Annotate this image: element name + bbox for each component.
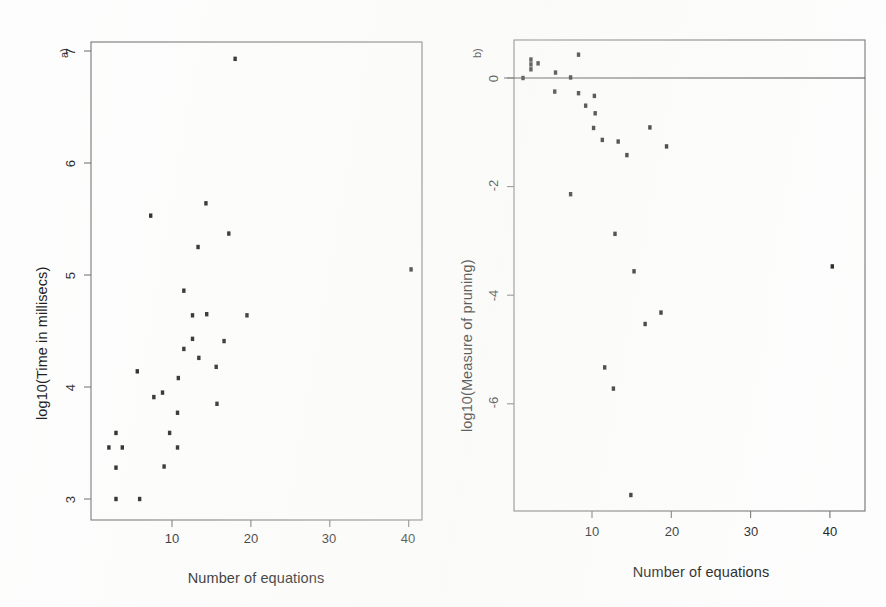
data-point: [114, 431, 117, 435]
data-point: [553, 89, 556, 93]
panel-b-xlabel: Number of equations: [601, 564, 801, 580]
data-point: [121, 445, 124, 449]
data-point: [162, 464, 165, 468]
panel-b-ytick-neg4: -4: [486, 284, 501, 308]
panel-a-ytick-7: 7: [63, 42, 78, 62]
data-point: [114, 497, 117, 501]
figure-canvas: a) log10(Time in millisecs) Number of eq…: [0, 0, 886, 607]
data-point: [629, 493, 632, 497]
panel-b-xtick-10: 10: [577, 524, 607, 539]
panel-b-xtick-30: 30: [736, 524, 766, 539]
plot-frame: [91, 42, 422, 520]
panel-a-xlabel: Number of equations: [156, 570, 356, 586]
data-point: [529, 57, 532, 61]
data-point: [625, 153, 628, 157]
data-point: [659, 310, 662, 314]
data-point: [196, 245, 199, 249]
data-point: [577, 91, 580, 95]
plot-frame: [514, 40, 865, 511]
data-point: [584, 103, 587, 107]
data-point: [138, 497, 141, 501]
data-point: [136, 369, 139, 373]
panel-a-xtick-10: 10: [157, 531, 187, 546]
data-point: [521, 76, 524, 80]
data-point: [233, 57, 236, 61]
data-point: [214, 365, 217, 369]
panel-a-plot-area: [0, 0, 443, 607]
data-point: [245, 313, 248, 317]
data-point: [603, 365, 606, 369]
data-point: [592, 126, 595, 130]
data-point: [191, 337, 194, 341]
data-point: [554, 70, 557, 74]
data-point: [182, 347, 185, 351]
panel-a-xtick-30: 30: [314, 531, 344, 546]
data-point: [643, 322, 646, 326]
panel-a-ytick-5: 5: [63, 266, 78, 286]
data-point: [114, 465, 117, 469]
data-point: [177, 376, 180, 380]
data-point: [577, 52, 580, 56]
panel-b: b) log10(Measure of pruning) Number of e…: [443, 0, 886, 607]
panel-a: a) log10(Time in millisecs) Number of eq…: [0, 0, 443, 607]
panel-b-ytick-neg6: -6: [486, 391, 501, 415]
data-point: [569, 192, 572, 196]
data-point: [569, 75, 572, 79]
data-point: [536, 61, 539, 65]
data-point: [176, 411, 179, 415]
data-point: [613, 232, 616, 236]
data-point: [612, 386, 615, 390]
panel-a-ytick-4: 4: [63, 378, 78, 398]
data-point: [222, 339, 225, 343]
panel-a-ytick-6: 6: [63, 154, 78, 174]
data-point: [215, 402, 218, 406]
data-point: [616, 139, 619, 143]
data-point: [168, 431, 171, 435]
panel-b-ylabel: log10(Measure of pruning): [459, 259, 475, 432]
data-point: [176, 445, 179, 449]
data-point: [648, 125, 651, 129]
data-point: [107, 445, 110, 449]
data-point: [601, 138, 604, 142]
data-point: [227, 231, 230, 235]
data-point: [191, 313, 194, 317]
panel-b-plot-area: [443, 0, 886, 607]
data-point: [593, 94, 596, 98]
panel-a-ylabel: log10(Time in millisecs): [34, 267, 50, 420]
panel-a-xtick-40: 40: [393, 531, 423, 546]
data-point: [409, 267, 412, 271]
panel-b-ytick-neg2: -2: [486, 174, 501, 198]
data-point: [529, 62, 532, 66]
data-point: [197, 356, 200, 360]
data-point: [204, 201, 207, 205]
data-point: [632, 269, 635, 273]
data-point: [152, 395, 155, 399]
panel-a-xtick-20: 20: [236, 531, 266, 546]
panel-b-tag: b): [471, 48, 483, 58]
data-point: [149, 213, 152, 217]
data-point: [161, 390, 164, 394]
panel-b-ytick-0: 0: [486, 69, 501, 89]
data-point: [831, 264, 834, 268]
data-point: [665, 144, 668, 148]
panel-a-ytick-3: 3: [63, 490, 78, 510]
data-point: [182, 288, 185, 292]
panel-b-xtick-20: 20: [657, 524, 687, 539]
data-point: [593, 111, 596, 115]
panel-b-xtick-40: 40: [815, 524, 845, 539]
data-point: [205, 312, 208, 316]
data-point: [529, 67, 532, 71]
